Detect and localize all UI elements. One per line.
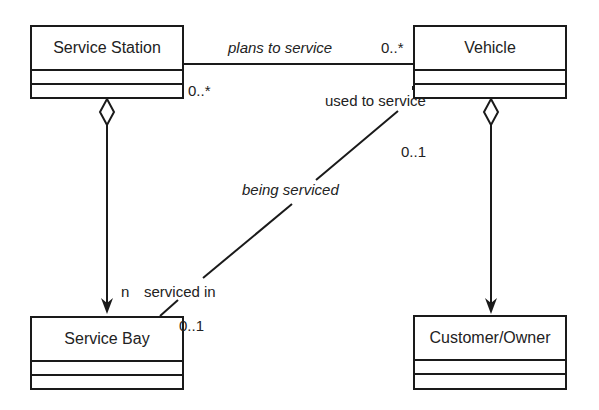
class-service-station[interactable]: Service Station — [30, 25, 184, 99]
class-name: Service Station — [32, 27, 182, 71]
class-customer-owner[interactable]: Customer/Owner — [413, 315, 567, 390]
class-vehicle[interactable]: Vehicle — [413, 25, 567, 99]
association-being-serviced-2 — [203, 204, 292, 278]
multiplicity-station-plans: 0..* — [188, 83, 211, 98]
role-used-to-service: used to service — [325, 93, 426, 108]
attributes-compartment — [415, 361, 565, 375]
attributes-compartment — [32, 71, 182, 85]
association-label-plans-to-service: plans to service — [228, 40, 332, 55]
attributes-compartment — [415, 71, 565, 85]
operations-compartment — [32, 376, 182, 388]
association-being-serviced-1 — [316, 111, 398, 180]
multiplicity-n: n — [121, 284, 129, 299]
association-being-serviced-3 — [160, 300, 178, 316]
class-name: Vehicle — [415, 27, 565, 71]
role-serviced-in: serviced in — [144, 284, 216, 299]
class-service-bay[interactable]: Service Bay — [30, 316, 184, 390]
aggregation-diamond-station — [100, 99, 114, 125]
attributes-compartment — [32, 362, 182, 376]
multiplicity-vehicle-plans: 0..* — [381, 40, 404, 55]
association-label-being-serviced: being serviced — [242, 182, 339, 197]
aggregation-diamond-vehicle — [484, 99, 498, 125]
operations-compartment — [415, 85, 565, 97]
multiplicity-vehicle-0-1: 0..1 — [401, 144, 426, 159]
class-name: Customer/Owner — [415, 317, 565, 361]
multiplicity-bay-0-1: 0..1 — [179, 318, 204, 333]
operations-compartment — [32, 85, 182, 97]
class-name: Service Bay — [32, 318, 182, 362]
operations-compartment — [415, 375, 565, 387]
